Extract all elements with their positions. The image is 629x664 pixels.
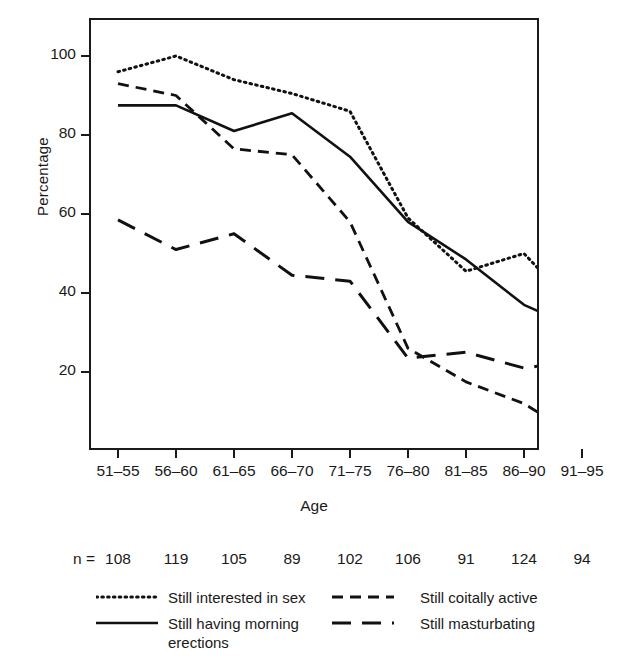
sample-size-value: 119	[146, 550, 206, 568]
sample-size-value: 105	[204, 550, 264, 568]
y-tick-mark	[81, 213, 89, 215]
x-axis-title: Age	[89, 497, 539, 515]
y-axis-title: Percentage	[34, 97, 51, 257]
y-tick-mark	[81, 292, 89, 294]
legend-label: Still coitally active	[420, 588, 620, 607]
x-tick-mark	[233, 449, 235, 458]
x-tick-mark	[117, 449, 119, 458]
series-line-0	[118, 56, 537, 315]
x-tick-mark	[523, 449, 525, 458]
x-tick-label: 91–95	[548, 462, 616, 480]
y-tick-mark	[81, 371, 89, 373]
y-tick-label: 80	[59, 124, 76, 142]
legend-swatch-dotted	[96, 590, 158, 604]
sample-size-row: n = 108119105891021069112494	[0, 550, 629, 570]
series-line-3	[118, 220, 537, 368]
x-tick-mark	[465, 449, 467, 458]
sample-size-value: 94	[552, 550, 612, 568]
y-tick-mark	[81, 55, 89, 57]
y-tick-label: 20	[59, 361, 76, 379]
legend-swatch-short-dash	[332, 590, 394, 604]
sample-size-value: 106	[378, 550, 438, 568]
x-tick-mark	[581, 449, 583, 458]
plot-area	[89, 18, 539, 450]
sample-size-value: 91	[436, 550, 496, 568]
legend-swatch-solid	[96, 616, 158, 630]
sample-size-value: 108	[88, 550, 148, 568]
legend-swatch-long-dash	[332, 616, 394, 630]
sample-size-value: 89	[262, 550, 322, 568]
x-tick-mark	[349, 449, 351, 458]
y-tick-label: 60	[59, 203, 76, 221]
legend-label: Still masturbating	[420, 614, 620, 633]
x-tick-mark	[175, 449, 177, 458]
series-line-1	[118, 105, 537, 330]
y-tick-mark	[81, 134, 89, 136]
chart-figure: Percentage 20406080100 51–5556–6061–6566…	[0, 0, 629, 664]
series-line-2	[118, 84, 537, 440]
sample-size-value: 102	[320, 550, 380, 568]
chart-legend: Still interested in sexStill having morn…	[0, 588, 629, 660]
y-tick-label: 100	[50, 45, 76, 63]
y-tick-label: 40	[59, 282, 76, 300]
x-tick-mark	[291, 449, 293, 458]
x-tick-mark	[407, 449, 409, 458]
line-chart-canvas	[91, 20, 537, 448]
sample-size-value: 124	[494, 550, 554, 568]
